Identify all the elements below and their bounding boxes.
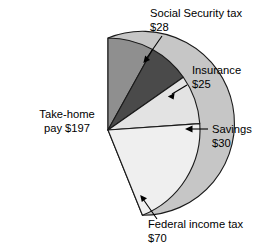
- label-savings-line1: Savings: [212, 123, 252, 135]
- label-federal-income-tax-line1: Federal income tax: [148, 218, 244, 230]
- label-savings-value: $30: [212, 137, 231, 149]
- pie-chart-canvas: Social Security tax $28 Insurance $25 Sa…: [0, 0, 266, 251]
- pie-chart-figure: Social Security tax $28 Insurance $25 Sa…: [0, 0, 266, 251]
- label-social-security-tax-value: $28: [150, 21, 169, 33]
- label-social-security-tax-line1: Social Security tax: [150, 7, 242, 19]
- label-take-home-pay-value: pay $197: [44, 122, 90, 134]
- label-insurance-line1: Insurance: [192, 64, 241, 76]
- label-insurance-value: $25: [192, 78, 211, 90]
- label-take-home-pay-line1: Take-home: [39, 108, 94, 120]
- label-federal-income-tax-value: $70: [148, 232, 167, 244]
